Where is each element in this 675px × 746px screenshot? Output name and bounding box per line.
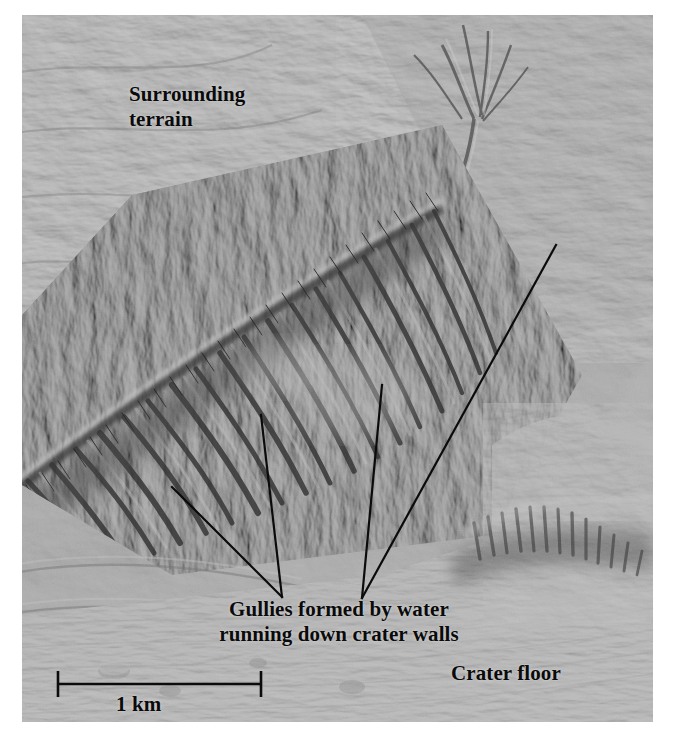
label-crater-floor: Crater floor bbox=[451, 661, 561, 686]
label-gullies: Gullies formed by water running down cra… bbox=[184, 597, 494, 647]
scale-bar-label: 1 km bbox=[116, 692, 161, 717]
label-surrounding-terrain: Surrounding terrain bbox=[129, 82, 245, 132]
figure-page: Surrounding terrain Gullies formed by wa… bbox=[0, 0, 675, 746]
